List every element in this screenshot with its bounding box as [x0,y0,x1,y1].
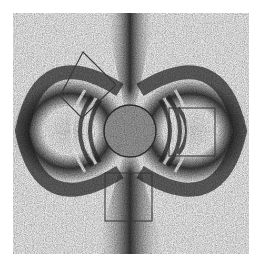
speckle-field [0,13,261,254]
fringe-pattern-figure [0,0,261,270]
